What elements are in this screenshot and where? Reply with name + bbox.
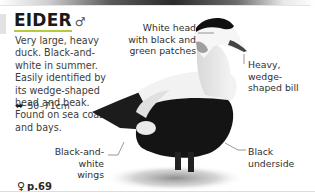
leader-line-wings — [108, 142, 124, 155]
annotation-head: White head with black and green patches — [128, 22, 196, 57]
leader-line-underside — [225, 143, 246, 150]
annotation-underside: Black underside — [248, 146, 308, 169]
annotation-wings: Black-and-white wings — [52, 146, 104, 181]
annotation-bill: Heavy, wedge-shaped bill — [248, 59, 314, 94]
divider-bottom — [0, 191, 315, 192]
